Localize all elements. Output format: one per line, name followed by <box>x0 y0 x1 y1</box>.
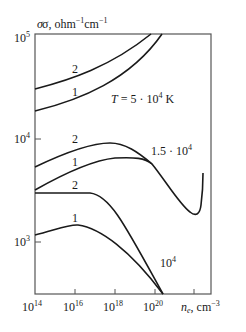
ytick-label-1e3: 103 <box>14 234 30 249</box>
curve-1e4-2 <box>35 193 163 294</box>
temp-label-5e4: T = 5 · 104 K <box>111 91 174 106</box>
label-1.5e4-1: 1 <box>72 155 78 169</box>
curve-1.5e4-1 <box>35 158 203 215</box>
temp-label-1.5e4: 1.5 · 104 <box>151 143 192 158</box>
curves <box>35 34 203 294</box>
ytick-label-1e5: 105 <box>14 30 30 45</box>
label-1.5e4-2: 2 <box>72 132 78 146</box>
x-ticks <box>75 289 194 294</box>
temp-label-1e4: 104 <box>160 255 176 270</box>
y-ticks <box>35 139 41 242</box>
x-axis-title: ne, cm−3 <box>181 299 220 315</box>
label-5e4-1: 1 <box>72 85 78 99</box>
y-axis-title: σσ, ohm−1cm−1 <box>37 16 107 31</box>
xtick-label-1e16: 1016 <box>63 299 83 314</box>
xtick-label-1e14: 1014 <box>22 299 42 314</box>
ytick-label-1e4: 104 <box>14 131 30 146</box>
xtick-label-1e20: 1020 <box>143 299 163 314</box>
label-1e4-1: 1 <box>72 211 78 225</box>
xtick-label-1e18: 1018 <box>103 299 123 314</box>
label-5e4-2: 2 <box>72 62 78 76</box>
curve-5e4-2 <box>35 34 151 89</box>
label-1e4-2: 2 <box>72 178 78 192</box>
conductivity-chart: σσ, ohm−1cm−1 105 104 103 1014 1016 1018… <box>0 0 246 332</box>
